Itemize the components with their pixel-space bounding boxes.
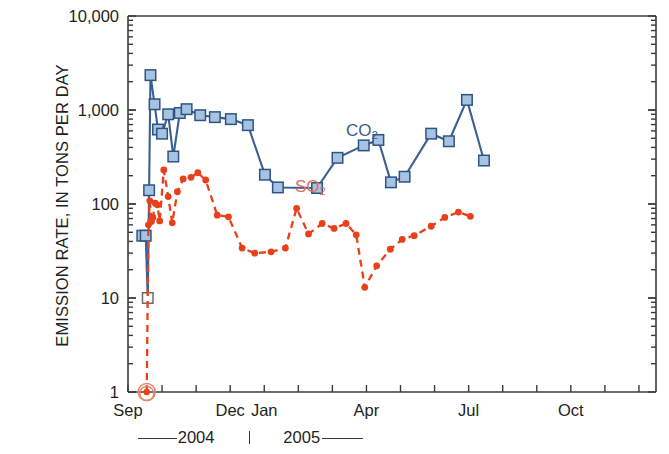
y-tick-label: 10,000 xyxy=(69,7,119,26)
data-point-co2 xyxy=(444,136,455,147)
data-point-co2 xyxy=(168,151,179,162)
data-point-co2 xyxy=(157,128,168,139)
data-point-co2 xyxy=(479,155,490,166)
data-point-so2 xyxy=(202,177,209,184)
data-point-co2 xyxy=(243,120,254,130)
data-point-so2 xyxy=(305,231,312,238)
data-point-co2 xyxy=(332,153,343,164)
data-point-so2 xyxy=(165,193,172,200)
data-point-co2 xyxy=(181,104,192,115)
x-tick-label-jan: Jan xyxy=(251,401,278,420)
y-tick-label: 10 xyxy=(101,289,119,308)
data-point-so2 xyxy=(160,167,167,174)
y-tick-label: 100 xyxy=(91,195,119,214)
data-point-so2 xyxy=(399,236,406,243)
data-point-so2 xyxy=(411,232,418,239)
data-point-co2 xyxy=(260,169,271,180)
x-tick-label-dec: Dec xyxy=(216,401,245,420)
data-point-so2 xyxy=(225,213,232,220)
data-point-co2 xyxy=(358,140,369,151)
year-separator xyxy=(249,431,250,444)
so2-annotation-text: SO xyxy=(295,177,320,196)
co2-annotation-subscript: 2 xyxy=(372,129,378,141)
data-point-so2 xyxy=(180,175,187,182)
data-point-so2 xyxy=(239,245,246,252)
data-point-co2 xyxy=(145,70,156,81)
co2-annotation: CO2 xyxy=(346,121,378,141)
year-label-2004: 2004 xyxy=(178,428,215,447)
year-rule-left xyxy=(138,438,177,439)
data-point-co2 xyxy=(386,177,397,188)
x-tick-label-oct: Oct xyxy=(558,401,584,420)
data-point-so2 xyxy=(214,212,221,219)
data-point-so2 xyxy=(293,205,300,212)
data-point-co2 xyxy=(210,112,221,123)
x-tick-label-jul: Jul xyxy=(458,401,479,420)
year-rule-right xyxy=(322,438,363,439)
data-point-so2 xyxy=(156,218,163,225)
x-tick-label-apr: Apr xyxy=(354,401,380,420)
data-point-so2 xyxy=(361,284,368,291)
data-point-so2 xyxy=(331,225,338,232)
data-point-so2 xyxy=(373,262,380,269)
so2-annotation-subscript: 2 xyxy=(319,185,325,197)
y-tick-label: 1,000 xyxy=(78,101,119,120)
data-point-so2 xyxy=(353,231,360,238)
data-point-so2 xyxy=(154,201,161,208)
series-so2 xyxy=(138,167,474,401)
data-point-co2 xyxy=(226,114,237,125)
co2-annotation-text: CO xyxy=(346,121,372,140)
data-point-co2 xyxy=(273,182,284,193)
data-point-so2 xyxy=(455,209,462,216)
data-point-so2 xyxy=(319,220,326,227)
y-axis-title: EMISSION RATE, IN TONS PER DAY xyxy=(53,26,72,386)
y-tick-label: 1 xyxy=(110,383,119,402)
year-label-2005: 2005 xyxy=(283,428,320,447)
data-point-so2 xyxy=(467,213,474,220)
data-point-co2 xyxy=(399,171,410,182)
data-point-co2 xyxy=(426,128,437,139)
so2-annotation: SO2 xyxy=(295,177,326,197)
data-point-so2 xyxy=(188,174,195,181)
data-point-so2 xyxy=(428,223,435,230)
plot-canvas xyxy=(0,0,669,454)
year-band: 2004 2005 xyxy=(0,428,669,452)
data-point-so2 xyxy=(169,219,176,226)
x-tick-label-sep: Sep xyxy=(113,401,142,420)
data-point-co2 xyxy=(462,95,473,106)
emission-rate-chart: EMISSION RATE, IN TONS PER DAY 10,0001,0… xyxy=(0,0,669,454)
data-point-so2 xyxy=(251,250,258,257)
data-point-so2 xyxy=(441,214,448,221)
data-point-co2 xyxy=(149,99,160,110)
data-point-so2 xyxy=(194,169,201,176)
data-point-co2 xyxy=(195,110,206,121)
data-point-so2 xyxy=(149,214,156,221)
data-point-co2 xyxy=(163,109,174,120)
data-point-so2 xyxy=(387,246,394,253)
data-point-co2 xyxy=(144,185,155,196)
data-point-so2 xyxy=(174,188,181,195)
data-point-so2 xyxy=(282,245,289,252)
data-point-so2 xyxy=(343,220,350,227)
data-point-so2 xyxy=(268,248,275,255)
